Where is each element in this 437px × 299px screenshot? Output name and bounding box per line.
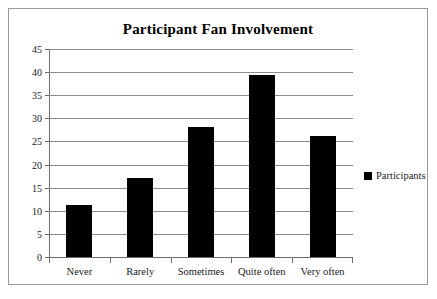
legend-label-participants: Participants	[376, 170, 426, 181]
x-axis-tick	[352, 257, 353, 263]
y-axis-tick	[45, 72, 49, 73]
x-axis-tick	[110, 257, 111, 263]
x-axis-tick-label: Very often	[301, 266, 345, 277]
bar	[127, 178, 153, 258]
gridline	[49, 49, 353, 50]
x-axis-tick-label: Rarely	[126, 266, 154, 277]
y-axis-tick-label: 30	[32, 113, 42, 124]
y-axis-tick-label: 5	[37, 228, 42, 239]
x-axis-tick	[292, 257, 293, 263]
gridline	[49, 257, 353, 258]
y-axis-tick-label: 35	[32, 90, 42, 101]
x-axis-tick-label: Never	[67, 266, 93, 277]
x-axis-tick	[49, 257, 50, 263]
x-axis-tick	[231, 257, 232, 263]
gridline	[49, 72, 353, 73]
y-axis-tick	[45, 49, 49, 50]
y-axis-tick-label: 0	[37, 252, 42, 263]
y-axis-tick-label: 20	[32, 159, 42, 170]
y-axis-tick	[45, 188, 49, 189]
legend: Participants	[364, 170, 426, 181]
y-axis-tick-label: 25	[32, 136, 42, 147]
chart-title: Participant Fan Involvement	[9, 21, 427, 38]
y-axis-tick	[45, 95, 49, 96]
y-axis-tick	[45, 118, 49, 119]
y-axis-tick-label: 10	[32, 205, 42, 216]
y-axis-tick	[45, 234, 49, 235]
bar	[310, 136, 336, 257]
x-axis-tick-label: Sometimes	[178, 266, 225, 277]
legend-swatch-participants	[364, 172, 372, 180]
x-axis-tick	[171, 257, 172, 263]
y-axis-tick	[45, 141, 49, 142]
y-axis-tick-label: 45	[32, 44, 42, 55]
y-axis-tick-label: 15	[32, 182, 42, 193]
y-axis-tick	[45, 165, 49, 166]
bar	[188, 127, 214, 257]
bar	[66, 205, 92, 257]
y-axis-line	[49, 49, 50, 257]
gridline	[49, 118, 353, 119]
y-axis-tick	[45, 211, 49, 212]
x-axis-tick-label: Quite often	[238, 266, 286, 277]
y-axis-tick-label: 40	[32, 67, 42, 78]
bar	[249, 75, 275, 257]
plot-area: 051015202530354045 NeverRarelySometimesQ…	[49, 49, 353, 257]
chart-frame: Participant Fan Involvement 051015202530…	[8, 8, 428, 285]
gridline	[49, 95, 353, 96]
